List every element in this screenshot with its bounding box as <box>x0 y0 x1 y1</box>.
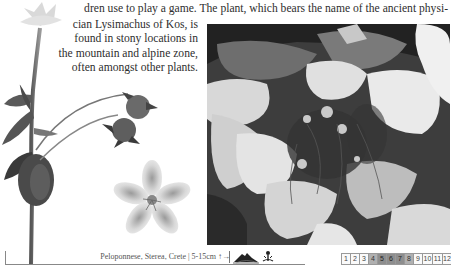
month-box: 12 <box>442 253 451 265</box>
footer-separator <box>229 251 230 263</box>
body-text-line: cian Lysimachus of Kos, is <box>0 18 198 32</box>
footer-left-tick <box>5 251 6 265</box>
flower-icon <box>261 250 275 264</box>
body-text-line: dren use to play a game. The plant, whic… <box>80 2 448 16</box>
month-box: 9 <box>413 253 422 265</box>
mountain-icon <box>232 250 260 264</box>
distribution-text: Peloponnese, Sterea, Crete | 5-15cm <box>100 252 216 261</box>
month-box: 7 <box>395 253 404 265</box>
month-box: 2 <box>350 253 359 265</box>
body-text-line: the mountain and alpine zone, <box>0 47 198 61</box>
month-box: 4 <box>368 253 377 265</box>
month-box: 5 <box>377 253 386 265</box>
body-text-block: cian Lysimachus of Kos, is found in ston… <box>0 18 198 76</box>
body-text-line: found in stony locations in <box>0 32 198 46</box>
month-box: 11 <box>432 253 442 265</box>
distribution-info: Peloponnese, Sterea, Crete | 5-15cm ↑→ <box>80 252 230 261</box>
habitat-photo <box>207 24 450 245</box>
month-box: 10 <box>422 253 432 265</box>
book-page: dren use to play a game. The plant, whic… <box>0 0 451 271</box>
body-text-line: often amongst other plants. <box>0 61 198 75</box>
flowering-months: 1 2 3 4 5 6 7 8 9 10 11 12 <box>341 253 451 265</box>
month-box: 8 <box>404 253 413 265</box>
footer-rule <box>5 264 305 265</box>
month-box: 6 <box>386 253 395 265</box>
month-box: 3 <box>359 253 368 265</box>
month-box: 1 <box>341 253 350 265</box>
